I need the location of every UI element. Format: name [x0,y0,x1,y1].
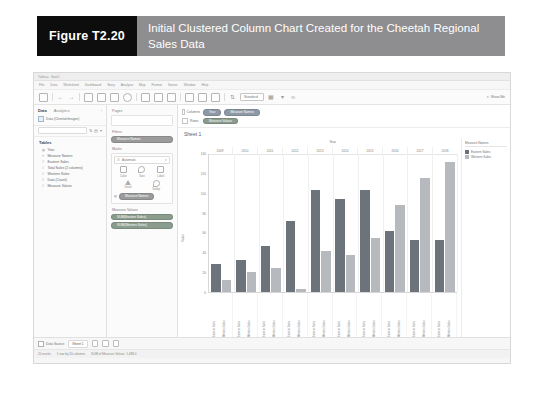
bar[interactable] [261,246,270,292]
search-input[interactable] [38,127,87,134]
bar[interactable] [435,240,444,292]
bar[interactable] [360,190,369,293]
totals-icon[interactable] [185,93,194,102]
rows-pill-measure-values[interactable]: Measure Values [203,118,238,125]
fix-axes-icon[interactable]: ▾ [279,94,286,101]
bar[interactable] [286,221,295,292]
undo-icon[interactable]: ← [57,94,64,101]
menu-dashboard[interactable]: Dashboard [85,83,101,87]
tab-analytics[interactable]: Analytics [54,108,70,113]
measure-value-pill-western[interactable]: SUM(Western Sales) [111,222,173,229]
sort-descending-icon[interactable] [167,93,176,102]
bar[interactable] [385,231,394,292]
x-tick-label: Western Sales [295,293,304,337]
rows-shelf-label: Rows [182,118,200,124]
new-worksheet-icon[interactable] [84,93,93,102]
menu-story[interactable]: Story [107,83,115,87]
bar[interactable] [335,199,344,292]
bar[interactable] [445,162,454,292]
x-label-group: Eastern SalesWestern Sales [407,293,432,337]
chevron-down-icon[interactable]: ▾ [100,129,102,133]
marks-size-button[interactable]: Size [135,166,149,178]
menu-format[interactable]: Format [152,83,162,87]
columns-pill-measure-names[interactable]: Measure Names [224,109,259,116]
sort-ascending-icon[interactable] [154,93,163,102]
marks-label-button[interactable]: Label [154,166,168,178]
bar[interactable] [410,240,419,292]
marks-detail-button[interactable]: Detail [121,180,135,192]
sort-fields-icon[interactable]: ⇅ [89,129,92,133]
menu-window[interactable]: Window [184,83,196,87]
x-tick-label: Eastern Sales [210,293,219,337]
bar[interactable] [211,264,220,292]
bar[interactable] [222,280,231,292]
show-me-button[interactable]: ▾ Show Me [487,95,505,99]
measure-value-pill-eastern[interactable]: SUM(Eastern Sales) [111,214,173,221]
redo-icon[interactable]: → [68,94,75,101]
new-worksheet-tab-icon[interactable] [92,340,99,347]
presentation-mode-icon[interactable]: ▦ [268,94,275,101]
new-dashboard-tab-icon[interactable] [102,340,109,347]
menu-worksheet[interactable]: Worksheet [63,83,79,87]
sheet-tab[interactable]: Sheet 1 [68,340,87,348]
bar[interactable] [296,289,305,292]
columns-shelf[interactable]: Columns Year Measure Names [182,108,506,117]
group-fields-icon[interactable]: ▤ [94,129,98,133]
marks-tooltip-button[interactable]: Tooltip [149,180,163,192]
marks-color-button[interactable]: Color [116,166,130,178]
datasource-label: Data (CheetahImages) [46,117,79,121]
bar[interactable] [271,268,280,292]
bar[interactable] [321,251,330,292]
save-icon[interactable] [39,93,48,102]
new-story-tab-icon[interactable] [113,340,120,347]
bar[interactable] [236,260,245,292]
text-icon: ≡ [41,154,45,158]
menu-help[interactable]: Help [201,83,208,87]
rows-shelf[interactable]: Rows Measure Values [182,117,506,126]
menu-bar[interactable]: File Data Worksheet Dashboard Story Anal… [34,81,510,90]
menu-analysis[interactable]: Analysis [121,83,133,87]
datasource-item[interactable]: Data (CheetahImages) [34,115,106,125]
fit-icon[interactable]: ⇅ [229,94,236,101]
refresh-icon[interactable] [123,93,132,102]
field-search[interactable]: ⇅ ▤ ▾ [34,125,106,137]
menu-data[interactable]: Data [50,83,57,87]
menu-file[interactable]: File [39,83,44,87]
swap-axes-icon[interactable] [141,93,150,102]
bar[interactable] [311,190,320,293]
bar[interactable] [420,178,429,292]
bar[interactable] [247,272,256,292]
highlight-icon[interactable] [198,93,207,102]
field-item-measure-values[interactable]: # Measure Values [34,183,106,189]
tab-data[interactable]: Data [38,108,47,113]
data-source-icon [38,341,44,347]
menu-server[interactable]: Server [168,83,178,87]
bar[interactable] [395,205,404,292]
data-pane-tabs[interactable]: Data Analytics ‹ [34,105,106,115]
number-icon: # [41,160,45,164]
marks-card: ☰ Automatic ▾ Color Size [111,153,173,204]
fit-dropdown[interactable]: Standard [240,93,264,101]
menu-map[interactable]: Map [139,83,145,87]
pages-label: Pages [111,105,173,115]
clear-sheet-icon[interactable] [110,93,119,102]
sheet-tab-bar[interactable]: Data Source Sheet 1 [34,337,510,349]
marks-pill-measure-names[interactable]: Measure Names [119,193,154,200]
columns-pill-year[interactable]: Year [203,109,221,116]
pages-shelf[interactable] [111,115,173,126]
share-icon[interactable]: ∞ [290,94,297,101]
group-members-icon[interactable] [211,93,220,102]
toolbar[interactable]: ← → ⇅ Standard ▦ ▾ ∞ ▾ Show Me [34,90,510,105]
filter-pill-measure-names[interactable]: Measure Names [111,136,173,143]
chart-area[interactable]: Year 20092010201120122013201420152016201… [178,138,461,337]
duplicate-sheet-icon[interactable] [97,93,106,102]
data-source-tab[interactable]: Data Source [38,341,64,347]
bar[interactable] [371,238,380,292]
year-tick-label: 2011 [258,147,283,154]
field-label: Eastern Sales [48,160,69,164]
bar[interactable] [346,255,355,292]
mark-type-dropdown[interactable]: ☰ Automatic ▾ [114,156,170,165]
legend-item-western[interactable]: Western Sales [465,154,507,159]
pane-collapse-icon[interactable]: ‹ [101,108,102,113]
show-me-label: Show Me [491,95,505,99]
